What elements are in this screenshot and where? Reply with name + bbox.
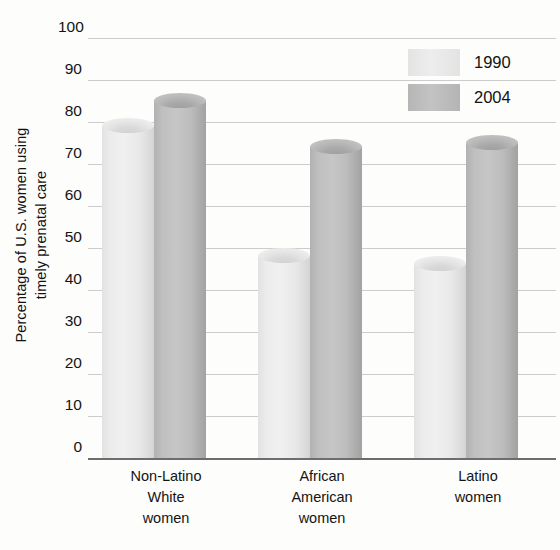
bar-body <box>414 263 466 458</box>
legend-item-1990: 1990 <box>408 47 548 77</box>
bar-top-cap <box>310 139 362 154</box>
y-axis-title-line-1: Percentage of U.S. women using <box>11 128 31 343</box>
x-category-label-0: Non-LatinoWhitewomen <box>88 466 244 529</box>
bar-body <box>258 255 310 458</box>
y-tick-label: 40 <box>58 271 88 287</box>
y-tick-label: 20 <box>58 355 88 371</box>
y-axis-tick-labels: 1009080706050403020100 <box>58 0 88 470</box>
legend-label-1990: 1990 <box>474 53 511 72</box>
bar-1990-cat-1 <box>258 248 310 458</box>
x-category-label-line: White <box>88 487 244 508</box>
bar-top-cap <box>466 135 518 150</box>
bar-2004-cat-1 <box>310 139 362 458</box>
y-tick-label: 80 <box>58 103 88 119</box>
bar-body <box>154 100 206 458</box>
x-category-label-line: women <box>88 508 244 529</box>
bar-2004-cat-2 <box>466 135 518 458</box>
y-tick-label: 60 <box>58 187 88 203</box>
bar-chart-figure: Percentage of U.S. women using timely pr… <box>0 0 560 550</box>
bar-body <box>310 146 362 458</box>
y-tick-label: 10 <box>58 397 88 413</box>
x-category-label-line: women <box>400 487 556 508</box>
y-tick-label: 50 <box>58 229 88 245</box>
bar-body <box>466 142 518 458</box>
bar-1990-cat-0 <box>102 118 154 458</box>
bar-1990-cat-2 <box>414 256 466 458</box>
bar-body <box>102 125 154 458</box>
legend-swatch-2004 <box>408 84 460 111</box>
x-category-label-line: Latino <box>400 466 556 487</box>
y-tick-label: 70 <box>58 145 88 161</box>
x-category-label-line: African <box>244 466 400 487</box>
x-category-label-line: Non-Latino <box>88 466 244 487</box>
x-category-label-2: Latinowomen <box>400 466 556 508</box>
x-axis-category-labels: Non-LatinoWhitewomenAfricanAmericanwomen… <box>88 466 556 546</box>
bar-top-cap <box>154 93 206 108</box>
legend-label-2004: 2004 <box>474 88 511 107</box>
y-tick-label: 30 <box>58 313 88 329</box>
bar-top-cap <box>258 248 310 263</box>
gridline <box>88 38 556 39</box>
x-category-label-line: American <box>244 487 400 508</box>
legend: 19902004 <box>408 47 548 117</box>
legend-swatch-1990 <box>408 49 460 76</box>
y-tick-label: 0 <box>58 439 88 455</box>
y-tick-label: 90 <box>58 61 88 77</box>
axis-baseline <box>88 458 556 460</box>
x-category-label-line: women <box>244 508 400 529</box>
y-axis-title: Percentage of U.S. women using timely pr… <box>0 0 62 470</box>
y-axis-title-line-2: timely prenatal care <box>31 128 51 343</box>
bar-top-cap <box>102 118 154 133</box>
legend-item-2004: 2004 <box>408 82 548 112</box>
x-category-label-1: AfricanAmericanwomen <box>244 466 400 529</box>
y-tick-label: 100 <box>58 19 88 35</box>
bar-2004-cat-0 <box>154 93 206 458</box>
